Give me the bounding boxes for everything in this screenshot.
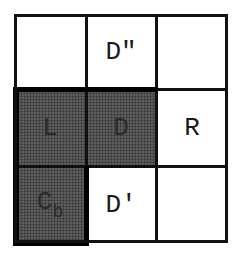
grid-outline (14, 14, 228, 243)
